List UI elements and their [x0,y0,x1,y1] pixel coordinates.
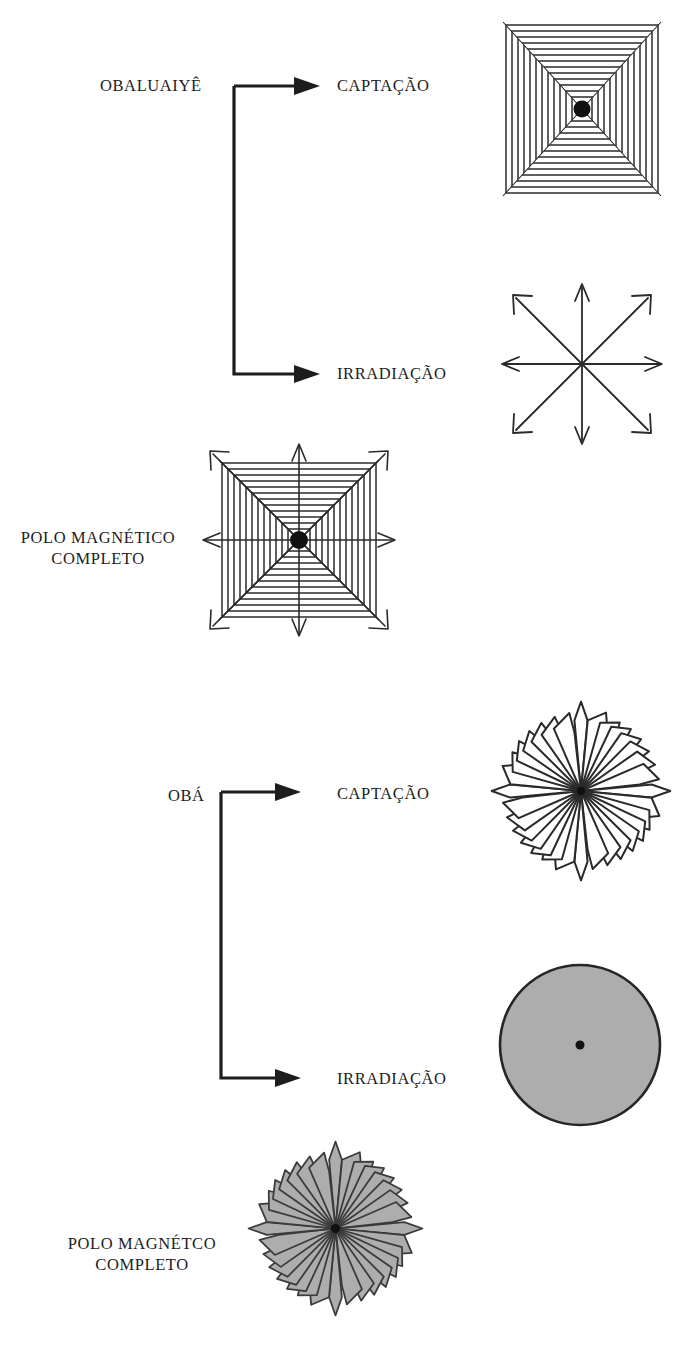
figure-striped-square [499,18,665,200]
label-obaluaiye-captacao: CAPTAÇÃO [337,76,429,97]
label-obaluaiye-irradiacao: IRRADIAÇÃO [337,364,447,385]
label-obaluaiye-polo-magnetico: POLO MAGNÉTICO COMPLETO [8,528,188,569]
figure-rosette-filled [243,1136,428,1321]
arrowhead-up-icon [294,77,320,95]
figure-eight-arrow-star [494,276,670,452]
center-dot [290,531,308,549]
connector-bracket-oba [215,782,315,1092]
diagram-page: OBALUAIYÊ CAPTAÇÃO IRRADIAÇÃO [0,0,694,1348]
center-dot [331,1224,340,1233]
label-polo-line-1: POLO MAGNÉTCO [42,1234,242,1255]
arrowhead-up-icon [275,783,301,801]
center-dot [577,787,586,796]
center-dot [576,1041,585,1050]
label-oba-irradiacao: IRRADIAÇÃO [337,1069,447,1090]
label-polo-line-1: POLO MAGNÉTICO [8,528,188,549]
figure-filled-circle [495,960,665,1130]
connector-bracket-obaluaiye [228,74,328,394]
label-obaluaiye-entity: OBALUAIYÊ [100,76,202,97]
label-oba-entity: OBÁ [168,786,205,807]
label-polo-line-2: COMPLETO [42,1255,242,1276]
arrowhead-down-icon [294,365,320,383]
figure-striped-square-with-arrows [193,434,405,646]
figure-rosette-outline [486,696,676,886]
center-dot [574,101,591,118]
label-oba-polo-magnetico: POLO MAGNÉTCO COMPLETO [42,1234,242,1275]
arrowhead-down-icon [275,1069,301,1087]
label-polo-line-2: COMPLETO [8,549,188,570]
label-oba-captacao: CAPTAÇÃO [337,784,429,805]
